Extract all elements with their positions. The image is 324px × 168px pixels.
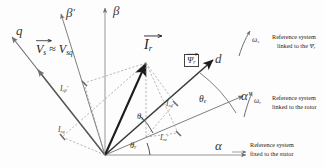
axis-label-d: d [215,52,222,66]
vector-rotor-current [105,63,146,155]
axis-label-beta-prime: β′ [66,6,75,20]
vector-stator-voltage [38,70,105,155]
axis-label-alpha-prime: α′ [241,89,250,103]
label-rotor-flux-boxed: Ψr [184,50,199,67]
annotation-line-1: Reference system [272,93,317,102]
figure-canvas: β′ β q d α′ α Vs ≈ Vsq Ir Ψr Irβ′ Irq Ir… [0,0,324,168]
label-I-r-q: Irq [58,126,64,135]
omega-s-arrow [239,31,250,56]
annotation-line-2: linked to the rotor [272,102,317,111]
axis-d [105,60,213,155]
annotation-flux-frame: Reference system linked to the Ψr [272,32,316,52]
axis-label-alpha: α [215,139,222,153]
annotation-line-2: fixed to the stator [250,149,294,158]
label-I-r-d: Ird [166,100,172,109]
annotation-rotor-frame: Reference system linked to the rotor [272,93,317,112]
label-omega-r: ωr [254,97,261,106]
label-theta-s: θs [137,112,143,122]
arc-theta-r [147,143,150,155]
label-I-r-beta-prime: Irβ′ [60,85,68,94]
label-theta-r: θr [130,141,136,151]
label-stator-voltage: Vs ≈ Vsq [36,43,73,56]
label-theta-e: θe [199,95,206,105]
annotation-line-2: linked to the Ψr [272,41,316,52]
axis-label-q: q [16,24,23,38]
annotation-line-1: Reference system [272,32,316,41]
projection-ticks [60,81,181,140]
axis-alpha-prime [105,96,243,155]
annotation-stator-frame: Reference system fixed to the stator [250,140,294,159]
label-omega-s: ωs [252,36,259,45]
label-rotor-current-vector: Ir [144,38,152,53]
label-I-r-alpha-prime: Irα′ [160,134,168,143]
annotation-line-1: Reference system [250,140,294,149]
axis-label-beta: β [113,4,119,18]
